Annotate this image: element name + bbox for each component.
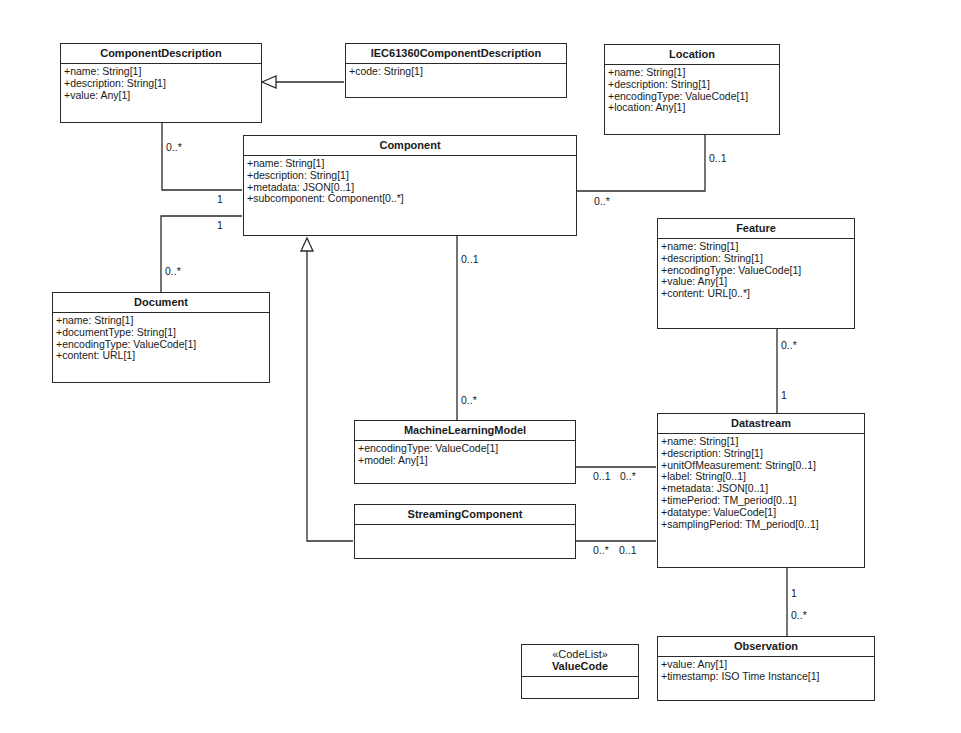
- class-name: «CodeList» ValueCode: [522, 645, 638, 677]
- multiplicity-label: 0..1: [709, 152, 727, 164]
- attribute: +description: String[1]: [608, 79, 776, 91]
- class-attributes: +name: String[1] +description: String[1]…: [61, 64, 261, 103]
- multiplicity-label: 0..*: [461, 394, 477, 406]
- class-name: Feature: [658, 219, 854, 239]
- attribute: +value: Any[1]: [64, 90, 258, 102]
- multiplicity-label: 1: [217, 193, 223, 205]
- multiplicity-label: 0..*: [620, 470, 636, 482]
- class-component-description[interactable]: ComponentDescription +name: String[1] +d…: [60, 43, 262, 123]
- multiplicity-label: 0..*: [593, 544, 609, 556]
- attribute: +content: URL[0..*]: [661, 288, 851, 300]
- attribute: +location: Any[1]: [608, 102, 776, 114]
- attribute: +samplingPeriod: TM_period[0..1]: [661, 519, 861, 531]
- class-attributes: +name: String[1] +documentType: String[1…: [53, 313, 269, 364]
- class-name: StreamingComponent: [355, 505, 575, 525]
- class-attributes: +value: Any[1] +timestamp: ISO Time Inst…: [658, 657, 874, 685]
- multiplicity-label: 0..*: [166, 141, 182, 153]
- attribute: +code: String[1]: [349, 66, 563, 78]
- class-iec61360-component-description[interactable]: IEC61360ComponentDescription +code: Stri…: [345, 43, 567, 98]
- class-datastream[interactable]: Datastream +name: String[1] +description…: [657, 413, 865, 568]
- class-name: IEC61360ComponentDescription: [346, 44, 566, 64]
- multiplicity-label: 0..*: [165, 265, 181, 277]
- class-value-code[interactable]: «CodeList» ValueCode: [521, 644, 639, 699]
- association-component-location: [576, 134, 705, 191]
- class-feature[interactable]: Feature +name: String[1] +description: S…: [657, 218, 855, 329]
- generalization-streaming-component: [307, 251, 353, 541]
- class-attributes: [355, 525, 575, 529]
- attribute: +subcomponent: Component[0..*]: [247, 193, 573, 205]
- multiplicity-label: 0..1: [593, 470, 611, 482]
- attribute: +description: String[1]: [247, 170, 573, 182]
- attribute: +content: URL[1]: [56, 350, 266, 362]
- association-compdesc-component: [162, 123, 242, 190]
- attribute: +datatype: ValueCode[1]: [661, 507, 861, 519]
- class-machine-learning-model[interactable]: MachineLearningModel +encodingType: Valu…: [354, 420, 576, 484]
- attribute: +description: String[1]: [64, 78, 258, 90]
- multiplicity-label: 0..*: [791, 609, 807, 621]
- class-name-text: ValueCode: [552, 660, 608, 672]
- class-attributes: +name: String[1] +description: String[1]…: [658, 239, 854, 302]
- class-attributes: +name: String[1] +description: String[1]…: [658, 434, 864, 532]
- class-document[interactable]: Document +name: String[1] +documentType:…: [52, 292, 270, 383]
- attribute: +timestamp: ISO Time Instance[1]: [661, 671, 871, 683]
- class-attributes: [522, 677, 638, 681]
- stereotype: «CodeList»: [524, 648, 636, 660]
- multiplicity-label: 1: [781, 389, 787, 401]
- class-location[interactable]: Location +name: String[1] +description: …: [604, 44, 780, 135]
- class-name: MachineLearningModel: [355, 421, 575, 441]
- class-attributes: +name: String[1] +description: String[1]…: [244, 156, 576, 207]
- multiplicity-label: 0..1: [619, 544, 637, 556]
- class-name: Document: [53, 293, 269, 313]
- multiplicity-label: 0..1: [461, 253, 479, 265]
- class-attributes: +encodingType: ValueCode[1] +model: Any[…: [355, 441, 575, 469]
- multiplicity-label: 0..*: [594, 195, 610, 207]
- class-attributes: +code: String[1]: [346, 64, 566, 80]
- class-observation[interactable]: Observation +value: Any[1] +timestamp: I…: [657, 636, 875, 701]
- class-name: Location: [605, 45, 779, 65]
- class-attributes: +name: String[1] +description: String[1]…: [605, 65, 779, 116]
- association-document-component: [161, 216, 242, 292]
- class-name: Observation: [658, 637, 874, 657]
- class-name: Datastream: [658, 414, 864, 434]
- attribute: +timePeriod: TM_period[0..1]: [661, 495, 861, 507]
- class-component[interactable]: Component +name: String[1] +description:…: [243, 135, 577, 236]
- multiplicity-label: 1: [791, 587, 797, 599]
- attribute: +description: String[1]: [661, 253, 851, 265]
- class-name: Component: [244, 136, 576, 156]
- multiplicity-label: 0..*: [781, 339, 797, 351]
- generalization-arrowhead: [262, 76, 276, 88]
- attribute: +documentType: String[1]: [56, 327, 266, 339]
- class-streaming-component[interactable]: StreamingComponent: [354, 504, 576, 559]
- multiplicity-label: 1: [217, 219, 223, 231]
- attribute: +description: String[1]: [661, 448, 861, 460]
- generalization-arrowhead: [301, 238, 313, 251]
- attribute: +model: Any[1]: [358, 455, 572, 467]
- class-name: ComponentDescription: [61, 44, 261, 64]
